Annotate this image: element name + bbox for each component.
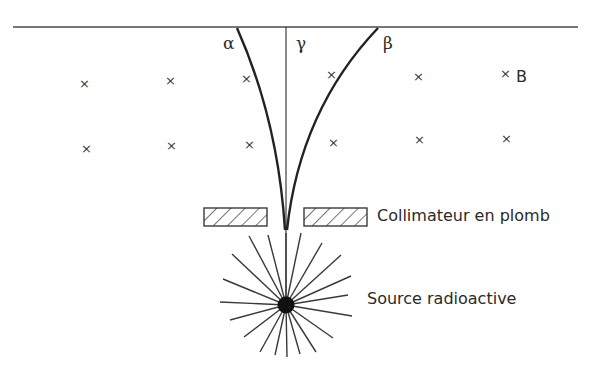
gamma-label: γ: [296, 33, 306, 53]
beta-particle-path: [287, 28, 378, 230]
beta-label: β: [383, 33, 393, 53]
alpha-label: α: [223, 33, 234, 53]
alpha-particle-path: [237, 28, 285, 230]
field-marker: ×: [81, 141, 92, 156]
collimator-label: Collimateur en plomb: [377, 206, 550, 225]
source-label: Source radioactive: [367, 289, 516, 308]
field-marker: ×: [328, 135, 339, 150]
field-marker: ×: [79, 76, 90, 91]
field-marker: ×: [241, 71, 252, 86]
field-marker: ×: [414, 132, 425, 147]
collimator-block-right: [304, 208, 367, 226]
field-marker: ×: [165, 73, 176, 88]
field-marker: ×: [500, 66, 511, 81]
field-marker: ×: [244, 137, 255, 152]
collimator-block-left: [204, 208, 267, 226]
field-marker: ×: [166, 138, 177, 153]
field-marker: ×: [413, 69, 424, 84]
magnetic-field-label: B: [516, 67, 527, 86]
radiation-rays: [220, 233, 352, 357]
radioactive-source-dot: [278, 297, 295, 314]
diagram-canvas: [0, 0, 596, 368]
field-marker: ×: [501, 131, 512, 146]
field-marker: ×: [326, 67, 337, 82]
